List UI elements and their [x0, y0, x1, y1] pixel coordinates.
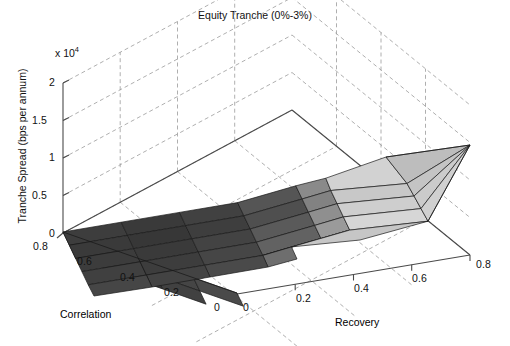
z-tick-1: 1	[49, 151, 55, 163]
z-axis-tick-marks	[63, 80, 69, 233]
z-tick-2: 2	[49, 76, 55, 88]
z-tick-1-5: 1.5	[32, 114, 47, 126]
x-tick-0-4: 0.4	[120, 271, 135, 283]
x-tick-0-2: 0.2	[164, 286, 179, 298]
x-tick-0-6: 0.6	[77, 255, 92, 267]
z-tick-0-5: 0.5	[32, 189, 47, 201]
y-tick-0-4: 0.4	[354, 282, 369, 294]
y-tick-0-6: 0.6	[412, 272, 427, 284]
plot-canvas	[0, 0, 510, 346]
z-tick-0: 0	[49, 227, 55, 239]
figure-3d-surface-plot: Equity Tranche (0%-3%) Tranche Spread (b…	[0, 0, 510, 346]
y-tick-0: 0	[243, 301, 249, 313]
y-tick-0-2: 0.2	[296, 292, 311, 304]
y-tick-0-8: 0.8	[476, 258, 491, 270]
x-tick-0-8: 0.8	[33, 240, 48, 252]
x-tick-0: 0	[214, 301, 220, 313]
